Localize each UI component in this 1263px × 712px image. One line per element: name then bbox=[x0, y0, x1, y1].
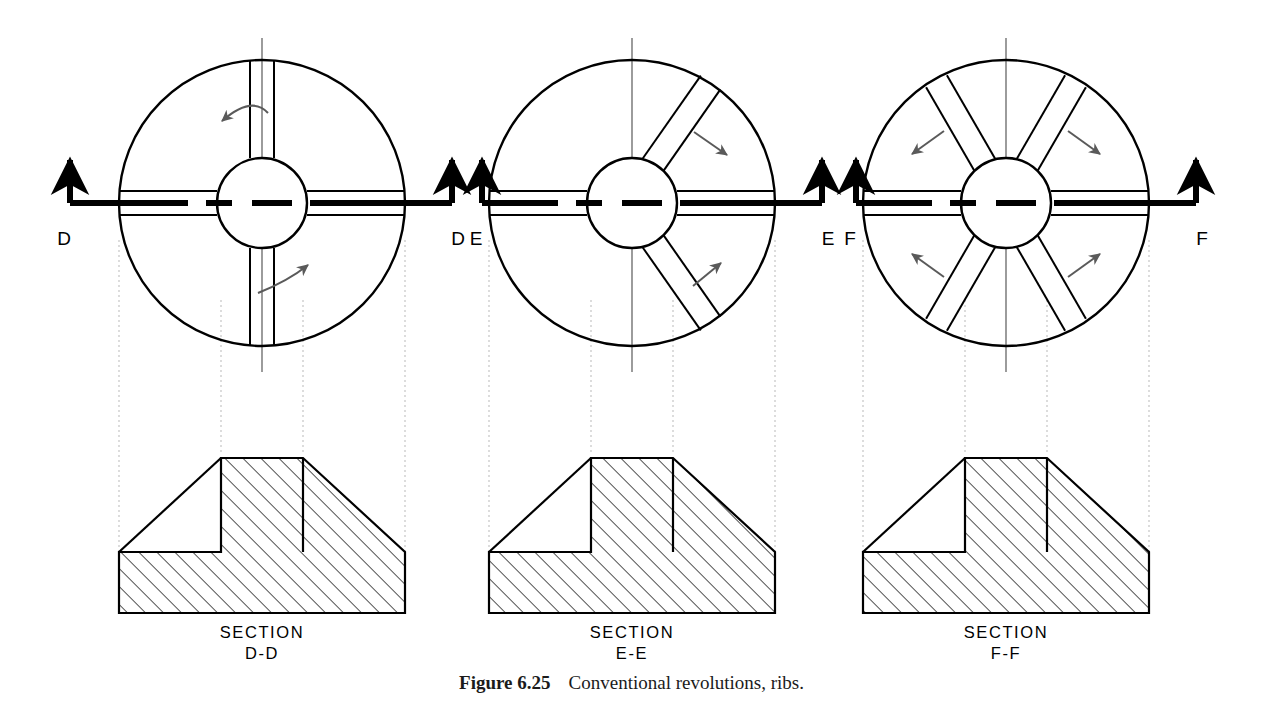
technical-drawing-canvas: D D SECTION D-D bbox=[0, 0, 1263, 712]
section-id-f: F-F bbox=[991, 644, 1021, 662]
section-id-d: D-D bbox=[245, 644, 279, 662]
figure-root: D D SECTION D-D bbox=[0, 0, 1263, 712]
cut-letter-e-right: E bbox=[822, 228, 835, 249]
section-word-e: SECTION bbox=[590, 623, 675, 641]
figure-number: Figure 6.25 bbox=[459, 672, 550, 693]
figure-caption-text: Conventional revolutions, ribs. bbox=[569, 672, 804, 693]
section-id-e: E-E bbox=[616, 644, 648, 662]
cut-letter-e-left: E bbox=[470, 228, 483, 249]
figure-caption: Figure 6.25Conventional revolutions, rib… bbox=[0, 672, 1263, 694]
cut-letter-f-right: F bbox=[1196, 228, 1208, 249]
cut-letter-d-right: D bbox=[451, 228, 465, 249]
cut-letter-d-left: D bbox=[57, 228, 71, 249]
cut-letter-f-left: F bbox=[844, 228, 856, 249]
section-word-d: SECTION bbox=[220, 623, 305, 641]
section-word-f: SECTION bbox=[964, 623, 1049, 641]
